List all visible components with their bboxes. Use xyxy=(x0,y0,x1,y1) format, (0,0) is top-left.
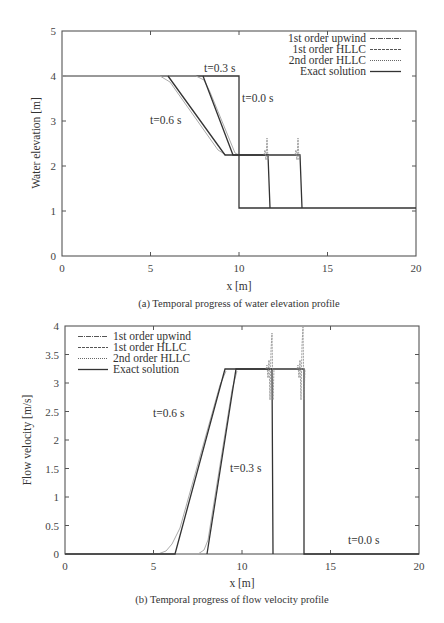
legend: 1st order upwind 1st order HLLC 2nd orde… xyxy=(78,330,191,375)
y-tick-label: 5 xyxy=(51,25,57,37)
y-axis-label: Water elevation [m] xyxy=(30,97,42,189)
series-t0-exact xyxy=(62,76,416,208)
y-tick-label: 0.5 xyxy=(45,520,59,532)
shock-spike-t03 xyxy=(266,333,274,400)
y-tick-labels: 0 0.5 1 1.5 2 2.5 3 3.5 4 xyxy=(45,320,59,560)
y-tick-label: 3.5 xyxy=(45,349,59,361)
y-tick-labels: 0 1 2 3 4 5 xyxy=(51,25,57,262)
y-tick-label: 3 xyxy=(51,115,57,127)
y-tick-label: 1 xyxy=(51,205,57,217)
x-tick-label: 5 xyxy=(148,262,154,274)
legend-label-exact: Exact solution xyxy=(300,65,366,77)
legend-label-exact: Exact solution xyxy=(113,363,179,375)
annotation-t00: t=0.0 s xyxy=(242,92,274,104)
y-tick-label: 0 xyxy=(54,548,60,560)
y-axis-label: Flow velocity [m/s] xyxy=(21,395,34,486)
water-elevation-chart: 0 1 2 3 4 5 0 5 10 15 20 x [m] Water ele… xyxy=(30,25,422,310)
shock-oscillation-t06 xyxy=(264,138,269,160)
y-tick-label: 2 xyxy=(51,160,57,172)
y-tick-label: 2.5 xyxy=(45,406,59,418)
annotation-t03: t=0.3 s xyxy=(204,62,236,74)
x-tick-label: 20 xyxy=(414,560,426,572)
chart-caption: (b) Temporal progress of flow velocity p… xyxy=(135,594,329,606)
shock-oscillation-t03 xyxy=(295,138,300,160)
x-tick-label: 15 xyxy=(325,560,337,572)
data-curves xyxy=(62,76,416,208)
x-tick-label: 20 xyxy=(411,262,423,274)
y-tick-label: 1 xyxy=(54,491,60,503)
x-tick-label: 5 xyxy=(151,560,157,572)
x-tick-labels: 0 5 10 15 20 xyxy=(59,262,422,274)
series-t06-hllc1 xyxy=(62,76,226,155)
y-tick-label: 0 xyxy=(51,250,57,262)
x-tick-label: 15 xyxy=(322,262,334,274)
x-axis-label: x [m] xyxy=(226,280,251,292)
x-tick-labels: 0 5 10 15 20 xyxy=(62,560,425,572)
x-tick-label: 10 xyxy=(237,560,249,572)
shock-spike-t06 xyxy=(297,327,305,400)
annotation-t00: t=0.0 s xyxy=(348,534,380,546)
series-t06-hllc1 xyxy=(65,371,226,554)
legend: 1st order upwind 1st order HLLC 2nd orde… xyxy=(288,32,401,77)
flow-velocity-chart: 0 0.5 1 1.5 2 2.5 3 3.5 4 0 5 10 15 20 x… xyxy=(21,320,425,606)
y-tick-label: 2 xyxy=(54,434,60,446)
annotation-t03: t=0.3 s xyxy=(230,462,262,474)
y-tick-label: 4 xyxy=(51,70,57,82)
x-tick-label: 0 xyxy=(62,560,68,572)
annotation-t06: t=0.6 s xyxy=(153,407,185,419)
y-tick-label: 4 xyxy=(54,320,60,332)
y-tick-label: 3 xyxy=(54,377,60,389)
annotation-t06: t=0.6 s xyxy=(150,114,182,126)
x-axis-label: x [m] xyxy=(229,577,254,589)
chart-caption: (a) Temporal progress of water elevation… xyxy=(138,298,340,310)
figure: 0 1 2 3 4 5 0 5 10 15 20 x [m] Water ele… xyxy=(0,0,444,623)
x-tick-label: 10 xyxy=(234,262,246,274)
x-tick-label: 0 xyxy=(59,262,65,274)
y-tick-label: 1.5 xyxy=(45,463,59,475)
